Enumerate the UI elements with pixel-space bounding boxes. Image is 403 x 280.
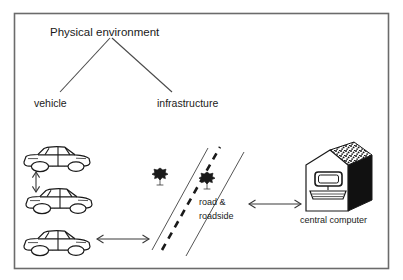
diagram-illustration: Physical environment vehicle infrastruct… [0,0,403,280]
page-title: Physical environment [50,26,160,38]
car-icon-top [24,147,90,172]
double-arrow-vertical-icon [32,172,39,192]
branch-label-vehicle: vehicle [34,97,67,109]
double-arrow-horizontal-icon-road-computer [249,200,301,208]
tree-icon-left [152,168,168,185]
double-arrow-horizontal-icon-vehicle-road [97,235,149,243]
hierarchy-branch-lines [60,38,172,92]
diagram-border [15,14,389,269]
branch-label-infrastructure: infrastructure [157,97,218,109]
car-icon-bottom [24,231,90,256]
road-label-line1: road & [199,197,226,207]
diagram-canvas: Physical environment vehicle infrastruct… [0,0,403,280]
building-icon [306,142,372,211]
road-label-line2: roadside [199,211,234,221]
central-computer-label: central computer [300,215,367,225]
road-illustration [152,147,244,256]
